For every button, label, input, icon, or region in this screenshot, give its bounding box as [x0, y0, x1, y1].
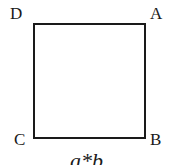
vertex-label-b: B — [150, 131, 161, 148]
vertex-label-d: D — [10, 5, 22, 22]
square-abcd — [33, 23, 146, 139]
diagram-caption: a*b — [0, 150, 173, 165]
vertex-label-a: A — [150, 5, 162, 22]
vertex-label-c: C — [14, 131, 25, 148]
